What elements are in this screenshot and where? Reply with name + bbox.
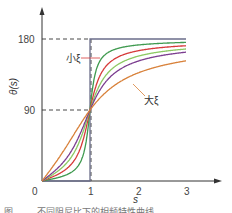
y-axis-arrow-icon bbox=[40, 7, 45, 15]
x-tick-1: 1 bbox=[88, 186, 94, 197]
y-tick-180: 180 bbox=[18, 34, 35, 45]
figure-caption: 图 …… 不同阻尼比下的相频特性曲线 bbox=[4, 206, 154, 213]
annotation-small-xi: 小ξ bbox=[66, 53, 100, 65]
curve-2 bbox=[42, 46, 186, 181]
curve-5 bbox=[42, 61, 186, 181]
curve-4 bbox=[42, 52, 186, 181]
x-tick-3: 3 bbox=[184, 186, 190, 197]
y-tick-90: 90 bbox=[24, 105, 36, 116]
svg-text:小ξ: 小ξ bbox=[66, 53, 81, 65]
x-axis-label: s bbox=[133, 194, 138, 205]
x-axis-arrow-icon bbox=[214, 179, 222, 184]
svg-text:大ξ: 大ξ bbox=[144, 94, 159, 107]
annotation-large-xi: 大ξ bbox=[133, 84, 159, 107]
y-axis-label: θ(s) bbox=[8, 78, 19, 95]
x-tick-0: 0 bbox=[32, 186, 38, 197]
phase-chart: 180 90 0 1 2 3 s θ(s) 小ξ 大ξ 图 …… 不同阻尼比下的… bbox=[0, 0, 232, 213]
curve-1 bbox=[42, 42, 186, 181]
